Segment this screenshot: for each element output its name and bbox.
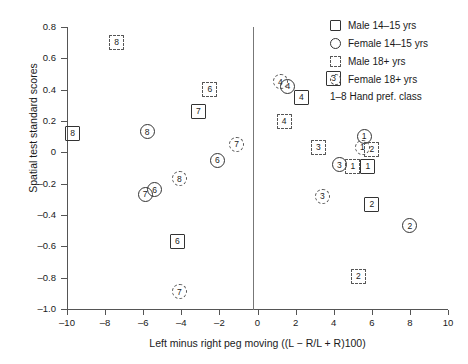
data-point: 2	[351, 269, 366, 284]
x-tick	[296, 310, 297, 315]
x-tick	[181, 310, 182, 315]
x-tick-label: –2	[204, 317, 234, 328]
x-tick-label: –10	[52, 317, 82, 328]
x-axis-title: Left minus right peg moving ((L − R/L + …	[67, 337, 448, 349]
legend-item: Female 14–15 yrs	[330, 36, 465, 52]
data-point: 1	[345, 159, 360, 174]
data-point: 6	[147, 182, 162, 197]
x-tick	[372, 310, 373, 315]
x-tick	[143, 310, 144, 315]
data-point: 4	[294, 90, 309, 105]
legend-note: 1–8 Hand pref. class	[330, 91, 465, 102]
legend-item: Male 18+ yrs	[330, 54, 465, 70]
x-tick-label: 10	[433, 317, 463, 328]
data-point: 8	[65, 126, 80, 141]
y-tick	[61, 90, 67, 91]
x-tick	[410, 310, 411, 315]
scatter-plot-figure: 0.80.60.40.20–0.2–0.4–0.6–0.8–1.0 –10–8–…	[0, 0, 468, 364]
x-tick	[258, 310, 259, 315]
y-tick	[61, 121, 67, 122]
data-point: 8	[172, 171, 187, 186]
data-point: 6	[202, 82, 217, 97]
y-tick	[61, 278, 67, 279]
data-point: 2	[364, 142, 379, 157]
legend-entries: Male 14–15 yrsFemale 14–15 yrsMale 18+ y…	[330, 18, 465, 88]
y-axis-line	[67, 27, 68, 310]
legend-label: Female 14–15 yrs	[348, 38, 428, 49]
data-point: 7	[229, 137, 244, 152]
y-tick	[61, 27, 67, 28]
x-tick-label: 4	[319, 317, 349, 328]
data-point: 6	[170, 234, 185, 249]
x-tick	[219, 310, 220, 315]
x-tick	[105, 310, 106, 315]
data-point: 7	[191, 104, 206, 119]
x-tick-label: 6	[357, 317, 387, 328]
x-tick	[67, 310, 68, 315]
data-point: 1	[360, 159, 375, 174]
y-tick	[61, 246, 67, 247]
y-tick	[61, 152, 67, 153]
legend-item: Female 18+ yrs	[330, 72, 465, 88]
legend-marker-icon	[330, 74, 341, 85]
y-tick-label: 0.8	[22, 21, 56, 32]
data-point: 6	[210, 153, 225, 168]
y-tick	[61, 184, 67, 185]
data-point: 8	[140, 124, 155, 139]
data-point: 2	[402, 218, 417, 233]
legend-label: Male 14–15 yrs	[348, 20, 416, 31]
y-axis-title: Spatial test standard scores	[27, 33, 39, 223]
x-tick-label: –8	[90, 317, 120, 328]
legend-marker-icon	[330, 38, 341, 49]
x-tick-label: 8	[395, 317, 425, 328]
zero-reference-line	[253, 27, 254, 310]
legend-label: Female 18+ yrs	[348, 74, 417, 85]
y-tick	[61, 58, 67, 59]
legend-marker-icon	[330, 56, 341, 67]
data-point: 4	[277, 114, 292, 129]
data-point: 3	[311, 140, 326, 155]
data-point: 3	[315, 189, 330, 204]
data-point: 2	[364, 197, 379, 212]
data-point: 8	[109, 35, 124, 50]
x-tick-label: –4	[166, 317, 196, 328]
legend-marker-icon	[330, 20, 341, 31]
y-tick-label: –1.0	[22, 303, 56, 314]
x-tick-label: 2	[281, 317, 311, 328]
x-tick	[334, 310, 335, 315]
legend-label: Male 18+ yrs	[348, 56, 406, 67]
y-tick-label: –0.8	[22, 272, 56, 283]
x-tick-label: 0	[243, 317, 273, 328]
y-tick-label: –0.6	[22, 240, 56, 251]
x-tick-label: –6	[128, 317, 158, 328]
y-tick	[61, 215, 67, 216]
data-point: 7	[172, 284, 187, 299]
chart-legend: Male 14–15 yrsFemale 14–15 yrsMale 18+ y…	[330, 18, 465, 102]
x-tick	[448, 310, 449, 315]
legend-item: Male 14–15 yrs	[330, 18, 465, 34]
